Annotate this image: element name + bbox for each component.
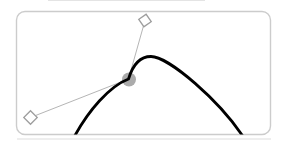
editor-panel bbox=[17, 12, 271, 135]
curve-editor-widget bbox=[0, 0, 282, 146]
curve-editor-canvas bbox=[0, 0, 282, 146]
